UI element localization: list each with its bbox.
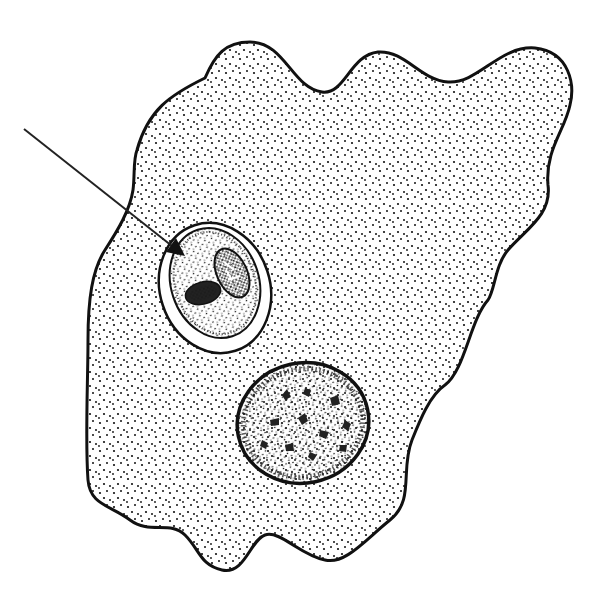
cell-illustration: [0, 0, 605, 592]
cell-membrane: [87, 42, 572, 570]
figure-stage: [0, 0, 605, 592]
